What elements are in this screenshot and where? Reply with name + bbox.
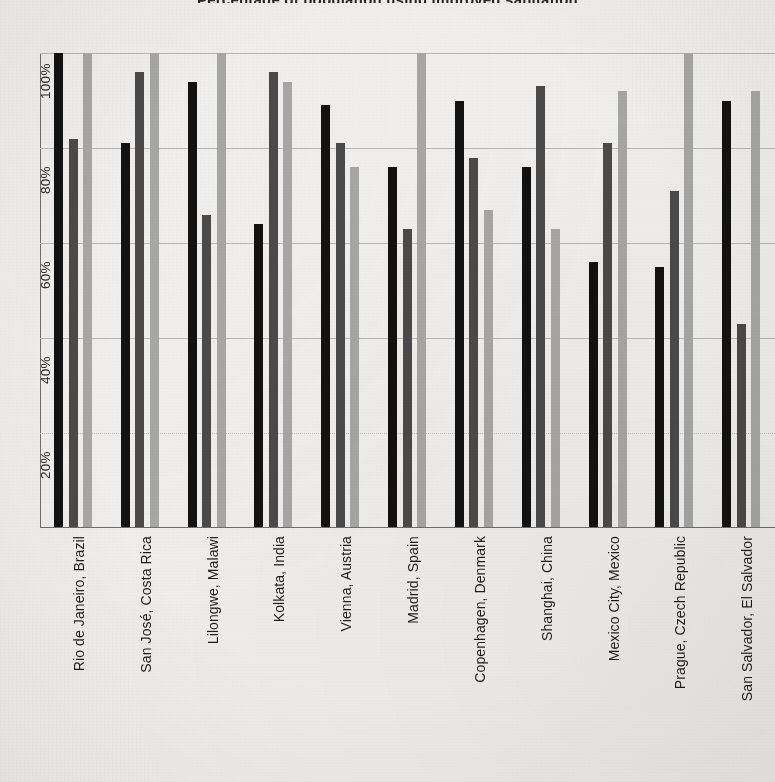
bar [121, 143, 130, 528]
bar [135, 72, 144, 528]
bar [670, 191, 679, 528]
x-axis-tick-label: Mexico City, Mexico [606, 536, 622, 661]
bar [54, 53, 63, 528]
x-axis-tick-label: Vienna, Austria [338, 536, 354, 631]
bar-group [388, 53, 426, 528]
bar-group [522, 53, 560, 528]
bar [551, 229, 560, 528]
bar [684, 53, 693, 528]
bar [150, 53, 159, 528]
bar-group [188, 53, 226, 528]
x-axis-tick-label-wrap: Shanghai, China [539, 536, 555, 641]
bar [455, 101, 464, 529]
bar [254, 224, 263, 528]
bar [69, 139, 78, 529]
bar [283, 82, 292, 529]
x-axis-tick-label: Lilongwe, Malawi [205, 536, 221, 644]
plot-area: 20%40%60%80%100% [40, 53, 775, 528]
bar [388, 167, 397, 528]
x-axis-tick-label-wrap: San Salvador, El Salvador [739, 536, 755, 701]
bar-group [722, 53, 760, 528]
bar-group [455, 53, 493, 528]
x-axis-tick-label-wrap: Prague, Czech Republic [672, 536, 688, 689]
bar [350, 167, 359, 528]
x-axis-tick-label: Shanghai, China [539, 536, 555, 641]
x-axis-tick-label-wrap: Madrid, Spain [405, 536, 421, 624]
bar-group [321, 53, 359, 528]
bar [188, 82, 197, 529]
x-axis-tick-label-wrap: Vienna, Austria [338, 536, 354, 631]
bar [403, 229, 412, 528]
x-axis-tick-label-wrap: Rio de Janeiro, Brazil [71, 536, 87, 671]
y-axis-tick-label: 20% [38, 451, 53, 479]
bar [484, 210, 493, 528]
x-axis-tick-label: San Salvador, El Salvador [739, 536, 755, 701]
x-axis-tick-label: Kolkata, India [271, 536, 287, 622]
bar-group [254, 53, 292, 528]
bar [751, 91, 760, 528]
bar [618, 91, 627, 528]
x-axis-line [40, 527, 775, 528]
x-axis-tick-label-wrap: San José, Costa Rica [138, 536, 154, 673]
bar [655, 267, 664, 528]
y-axis-tick-label: 40% [38, 356, 53, 384]
bar [522, 167, 531, 528]
x-axis-tick-labels: Rio de Janeiro, BrazilSan José, Costa Ri… [40, 536, 775, 782]
bar [321, 105, 330, 528]
x-axis-tick-label-wrap: Kolkata, India [271, 536, 287, 622]
bars-layer [40, 53, 775, 528]
x-axis-tick-label: Copenhagen, Denmark [472, 536, 488, 683]
bar-group [589, 53, 627, 528]
bar-group [54, 53, 92, 528]
bar [737, 324, 746, 528]
bar-chart: Percentage of population using improved … [0, 0, 775, 782]
chart-title: Percentage of population using improved … [0, 0, 775, 3]
bar-group [121, 53, 159, 528]
bar [722, 101, 731, 529]
x-axis-tick-label-wrap: Mexico City, Mexico [606, 536, 622, 661]
y-axis-tick-label: 100% [38, 63, 53, 99]
bar [469, 158, 478, 529]
y-axis-tick-label: 80% [38, 166, 53, 194]
bar [589, 262, 598, 528]
bar [603, 143, 612, 528]
x-axis-tick-label: San José, Costa Rica [138, 536, 154, 673]
bar [217, 53, 226, 528]
bar [536, 86, 545, 528]
bar [202, 215, 211, 529]
x-axis-tick-label-wrap: Lilongwe, Malawi [205, 536, 221, 644]
y-axis-tick-label: 60% [38, 261, 53, 289]
x-axis-tick-label: Madrid, Spain [405, 536, 421, 624]
bar [417, 53, 426, 528]
bar [83, 53, 92, 528]
bar-group [655, 53, 693, 528]
x-axis-tick-label: Prague, Czech Republic [672, 536, 688, 689]
bar [336, 143, 345, 528]
x-axis-tick-label: Rio de Janeiro, Brazil [71, 536, 87, 671]
bar [269, 72, 278, 528]
x-axis-tick-label-wrap: Copenhagen, Denmark [472, 536, 488, 683]
